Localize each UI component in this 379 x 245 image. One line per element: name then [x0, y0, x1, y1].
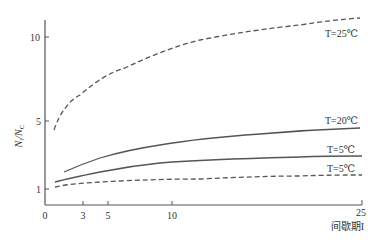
label-t5-solid: T=5℃ — [327, 144, 355, 155]
curve-labels: T=25℃ T=20℃ T=5℃ T=5℃ — [325, 28, 358, 174]
label-t20: T=20℃ — [325, 115, 358, 126]
curve-t5-dashed — [55, 175, 362, 187]
x-axis-title: 间歇期I — [331, 220, 364, 232]
y-tick-label-5: 5 — [36, 116, 41, 127]
curves — [54, 18, 362, 187]
y-axis-title: Ni/NC — [13, 124, 26, 148]
x-tick-label-25: 25 — [356, 207, 366, 218]
x-tick-label-0: 0 — [43, 210, 48, 221]
tick-labels: 10 5 1 0 3 5 10 25 — [30, 32, 366, 221]
x-tick-label-5: 5 — [106, 210, 111, 221]
label-t5-dashed: T=5℃ — [327, 163, 355, 174]
chart: 10 5 1 0 3 5 10 25 间歇期I Ni/NC T=25℃ T=20… — [0, 0, 379, 245]
curve-t25-dashed — [54, 18, 360, 130]
x-tick-label-3: 3 — [81, 210, 86, 221]
y-tick-label-10: 10 — [30, 32, 40, 43]
label-t25: T=25℃ — [325, 28, 358, 39]
x-tick-label-10: 10 — [167, 210, 177, 221]
y-tick-label-1: 1 — [36, 184, 41, 195]
axes — [45, 20, 362, 205]
svg-text:Ni/NC: Ni/NC — [13, 124, 26, 148]
curve-t20-solid — [64, 128, 360, 172]
y-title-sub-c: C — [18, 124, 26, 129]
